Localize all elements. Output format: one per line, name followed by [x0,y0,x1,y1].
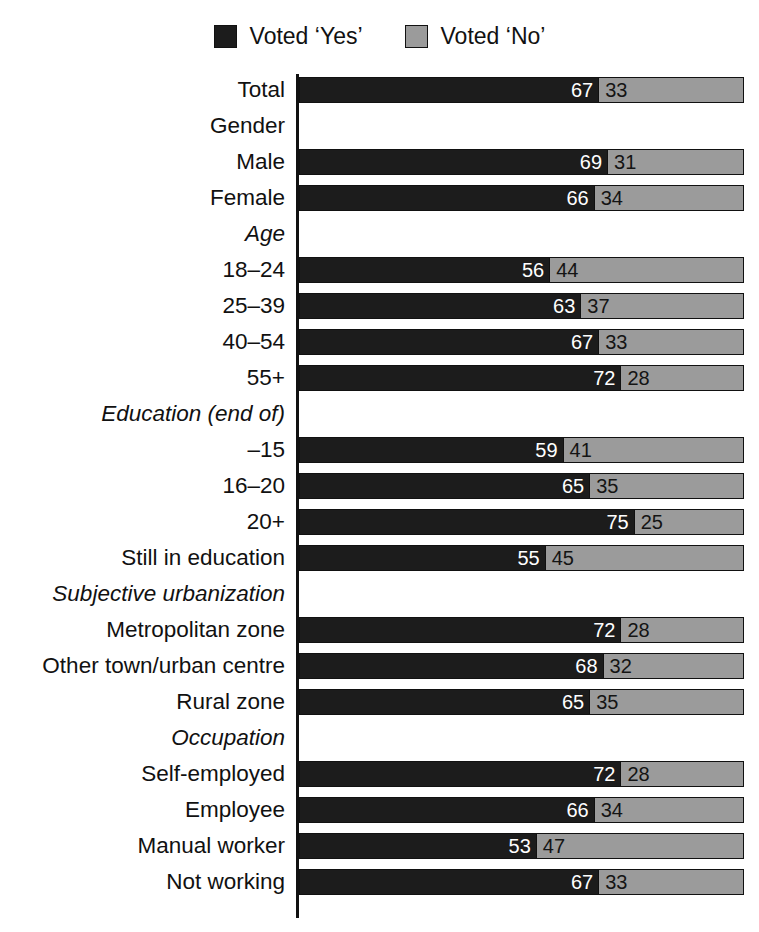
stacked-bar: 7228 [299,761,744,787]
category-label: 20+ [247,504,285,540]
chart-row: Not working6733 [0,864,759,900]
bar-segment-no: 41 [563,438,743,462]
bar-value-yes: 75 [607,512,634,532]
bar-value-no: 47 [537,836,565,856]
group-header-row: Subjective urbanization [0,576,759,612]
bar-segment-yes: 66 [300,186,594,210]
stacked-bar: 6832 [299,653,744,679]
bar-value-yes: 72 [593,764,620,784]
stacked-bar: 6733 [299,329,744,355]
bar-segment-yes: 65 [300,690,589,714]
bar-value-yes: 69 [580,152,607,172]
category-label: 55+ [247,360,285,396]
bar-segment-yes: 67 [300,330,598,354]
bar-segment-no: 33 [598,330,743,354]
stacked-bar: 5941 [299,437,744,463]
bar-value-yes: 65 [562,692,589,712]
chart-row: Total6733 [0,72,759,108]
bar-value-yes: 67 [571,80,598,100]
bar-segment-yes: 67 [300,78,598,102]
category-label: Self-employed [141,756,285,792]
category-label: –15 [247,432,285,468]
chart-row: Rural zone6535 [0,684,759,720]
bar-segment-no: 45 [545,546,743,570]
chart-row: 20+7525 [0,504,759,540]
category-label: Still in education [121,540,285,576]
stacked-bar-chart: Voted ‘Yes’Voted ‘No’ Total6733GenderMal… [0,0,759,932]
bar-segment-no: 33 [598,78,743,102]
category-label: 25–39 [222,288,285,324]
category-label: 16–20 [222,468,285,504]
bar-value-no: 25 [635,512,663,532]
bar-value-yes: 53 [509,836,536,856]
chart-row: –155941 [0,432,759,468]
category-label: Rural zone [176,684,285,720]
bar-value-no: 41 [564,440,592,460]
bar-value-no: 33 [599,80,627,100]
stacked-bar: 7525 [299,509,744,535]
chart-row: Male6931 [0,144,759,180]
bar-segment-no: 31 [607,150,743,174]
bar-segment-yes: 59 [300,438,563,462]
chart-row: 18–245644 [0,252,759,288]
bar-value-yes: 65 [562,476,589,496]
bar-segment-yes: 72 [300,762,620,786]
group-header-label: Age [245,216,285,252]
category-label: Manual worker [137,828,285,864]
bar-segment-no: 34 [594,798,743,822]
bar-value-no: 28 [621,368,649,388]
bar-value-yes: 67 [571,872,598,892]
category-label: Metropolitan zone [106,612,285,648]
bar-segment-yes: 72 [300,366,620,390]
legend-entry-no: Voted ‘No’ [405,25,546,48]
bar-segment-no: 28 [620,618,743,642]
bar-value-no: 44 [550,260,578,280]
plot-area: Total6733GenderMale6931Female6634Age18–2… [0,72,759,932]
chart-row: 16–206535 [0,468,759,504]
bar-value-yes: 59 [535,440,562,460]
stacked-bar: 6634 [299,797,744,823]
bar-segment-no: 28 [620,366,743,390]
bar-segment-yes: 56 [300,258,549,282]
chart-legend: Voted ‘Yes’Voted ‘No’ [0,16,759,56]
bar-value-yes: 72 [593,620,620,640]
legend-entry-yes: Voted ‘Yes’ [214,25,363,48]
bar-segment-no: 47 [536,834,743,858]
bar-segment-no: 33 [598,870,743,894]
category-label: 18–24 [222,252,285,288]
bar-value-yes: 56 [522,260,549,280]
bar-value-yes: 55 [518,548,545,568]
stacked-bar: 7228 [299,617,744,643]
bar-segment-no: 35 [589,690,743,714]
bar-segment-yes: 53 [300,834,536,858]
chart-row: Other town/urban centre6832 [0,648,759,684]
bar-segment-yes: 63 [300,294,580,318]
bar-value-no: 33 [599,332,627,352]
category-label: Other town/urban centre [42,648,285,684]
stacked-bar: 5347 [299,833,744,859]
bar-value-no: 34 [595,800,623,820]
stacked-bar: 6535 [299,689,744,715]
bar-segment-no: 28 [620,762,743,786]
group-header-row: Gender [0,108,759,144]
category-label: Female [210,180,285,216]
stacked-bar: 6733 [299,77,744,103]
bar-segment-yes: 55 [300,546,545,570]
chart-row: Employee6634 [0,792,759,828]
bar-segment-yes: 68 [300,654,603,678]
bar-segment-no: 44 [549,258,743,282]
category-label: Employee [185,792,285,828]
bar-value-yes: 66 [566,188,593,208]
stacked-bar: 6634 [299,185,744,211]
legend-label: Voted ‘No’ [441,25,546,48]
stacked-bar: 7228 [299,365,744,391]
bar-value-no: 35 [590,692,618,712]
bar-value-yes: 72 [593,368,620,388]
bar-segment-yes: 69 [300,150,607,174]
bar-value-yes: 66 [566,800,593,820]
bar-value-no: 33 [599,872,627,892]
bar-value-no: 28 [621,620,649,640]
chart-row: Self-employed7228 [0,756,759,792]
category-label: Male [236,144,285,180]
stacked-bar: 6337 [299,293,744,319]
